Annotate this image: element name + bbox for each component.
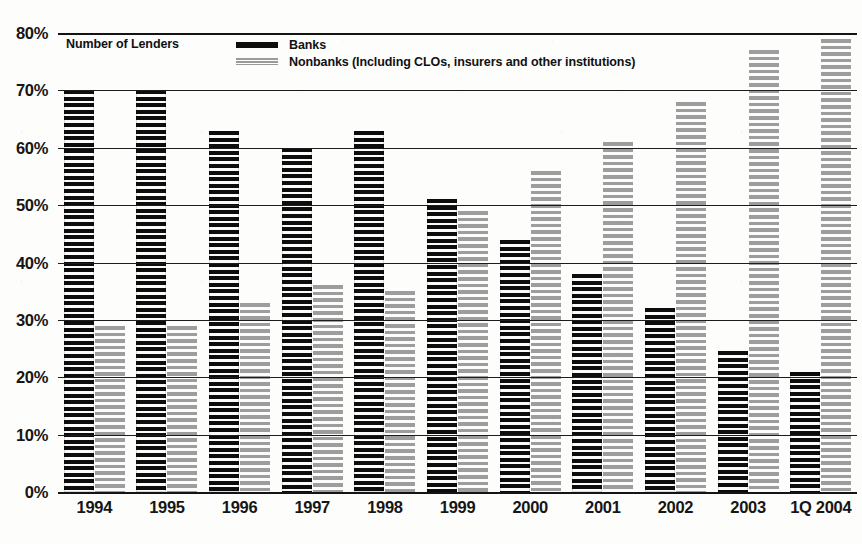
bar-banks-1Q-2004 [790,372,820,492]
bar-banks-2003 [718,351,748,492]
y-axis-tick-label: 10% [0,425,48,444]
x-axis-tick-label: 1995 [131,498,204,528]
bar-nonbanks-2001 [603,142,633,492]
bar-nonbanks-2000 [531,171,561,492]
bar-nonbanks-1994 [95,326,125,492]
legend-caption: Number of Lenders [66,36,236,53]
y-axis-tick-label: 50% [0,196,48,215]
legend-item-nonbanks: Nonbanks (Including CLOs, insurers and o… [236,53,635,70]
y-axis-tick-label: 0% [0,483,48,502]
legend-label-nonbanks: Nonbanks (Including CLOs, insurers and o… [289,55,635,69]
bar-nonbanks-1Q-2004 [821,39,851,492]
x-axis-tick-label: 2000 [494,498,567,528]
chart-legend: Number of Lenders Banks Nonbanks (Includ… [66,36,635,70]
gridline-40 [58,263,857,264]
bar-banks-2000 [500,240,530,492]
y-axis-tick-label: 70% [0,81,48,100]
lenders-bar-chart: 80%70%60%50%40%30%20%10%0% 1994199519961… [0,0,862,544]
bar-nonbanks-1997 [313,285,343,492]
bar-banks-2001 [572,274,602,492]
gridline-10 [58,435,857,436]
x-axis-tick-label: 1998 [349,498,422,528]
x-axis-tick-label: 2002 [639,498,712,528]
x-axis-tick-label: 2001 [566,498,639,528]
bar-banks-1999 [427,199,457,492]
gridline-70 [58,90,857,91]
gridline-80 [58,33,857,35]
y-axis-tick-label: 30% [0,310,48,329]
bar-nonbanks-1999 [458,211,488,492]
gridline-50 [58,205,857,206]
legend-swatch-nonbanks-icon [236,58,278,65]
x-axis: 1994199519961997199819992000200120022003… [58,498,857,528]
legend-label-banks: Banks [289,38,326,52]
y-axis-tick-label: 20% [0,368,48,387]
y-axis-tick-label: 80% [0,24,48,43]
bar-nonbanks-1995 [167,326,197,492]
x-axis-tick-label: 1997 [276,498,349,528]
bar-nonbanks-2003 [749,50,779,492]
bar-banks-1998 [354,131,384,492]
gridline-20 [58,377,857,378]
y-axis-tick-label: 40% [0,253,48,272]
bar-banks-2002 [645,308,675,492]
x-axis-tick-label: 1Q 2004 [784,498,857,528]
x-axis-tick-label: 1999 [421,498,494,528]
plot-area [58,33,857,492]
gridline-60 [58,148,857,149]
x-axis-tick-label: 1994 [58,498,131,528]
x-axis-tick-label: 1996 [203,498,276,528]
bar-banks-1995 [136,90,166,492]
x-axis-tick-label: 2003 [712,498,785,528]
gridline-30 [58,320,857,321]
legend-swatch-banks-icon [236,42,278,48]
bar-nonbanks-1998 [385,291,415,492]
bar-nonbanks-1996 [240,303,270,492]
bar-banks-1994 [64,90,94,492]
y-axis-tick-label: 60% [0,138,48,157]
legend-entries: Banks Nonbanks (Including CLOs, insurers… [236,36,635,70]
legend-item-banks: Banks [236,36,635,53]
bar-banks-1996 [209,131,239,492]
gridline-0 [58,492,857,494]
bar-nonbanks-2002 [676,102,706,492]
